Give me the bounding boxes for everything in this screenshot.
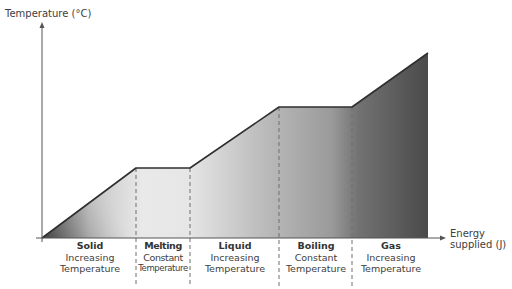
phase-name: Liquid [192, 240, 278, 252]
phase-desc-line1: Constant [280, 252, 352, 264]
phase-desc-line2: Temperature [136, 263, 190, 275]
x-axis-label: Energy supplied (J) [450, 228, 506, 250]
phase-label-boiling: Boiling Constant Temperature [280, 240, 352, 275]
phase-name: Gas [353, 240, 429, 252]
x-axis-label-line2: supplied (J) [450, 239, 506, 250]
phase-desc-line1: Increasing [353, 252, 429, 264]
phase-name: Melting [136, 240, 190, 252]
phase-desc-line2: Temperature [353, 263, 429, 275]
phase-desc-line1: Increasing [192, 252, 278, 264]
phase-desc-line1: Constant [136, 252, 190, 264]
y-axis-arrow-icon [40, 22, 45, 28]
phase-label-melting: Melting Constant Temperature [136, 240, 190, 275]
phase-label-solid: Solid Increasing Temperature [50, 240, 130, 275]
phase-desc-line2: Temperature [50, 263, 130, 275]
phase-label-gas: Gas Increasing Temperature [353, 240, 429, 275]
y-axis-label: Temperature (°C) [5, 8, 91, 19]
phase-name: Solid [50, 240, 130, 252]
x-axis-label-line1: Energy [450, 228, 506, 239]
phase-desc-line1: Increasing [50, 252, 130, 264]
phase-desc-line2: Temperature [280, 263, 352, 275]
phase-label-liquid: Liquid Increasing Temperature [192, 240, 278, 275]
x-axis-arrow-icon [440, 236, 446, 241]
phase-desc-line2: Temperature [192, 263, 278, 275]
phase-name: Boiling [280, 240, 352, 252]
